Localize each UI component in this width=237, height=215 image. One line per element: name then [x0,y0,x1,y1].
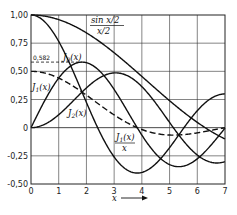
x-tick-label: 4 [139,187,144,196]
x-tick-label: 1 [56,187,61,196]
curve-j2 [31,73,225,163]
label-j0: J0(x) [61,52,82,63]
label-sinc-numerator: sin x/2 [91,15,119,25]
label-j1x-denominator: x [122,143,127,153]
plot-curves [31,15,225,173]
bessel-function-chart: 1,000,750,500,250-0,25-0,50 01234567 0,5… [0,0,237,215]
x-tick-label: 0 [28,187,33,196]
x-tick-label: 7 [222,187,227,196]
label-j1: J1(x) [30,82,51,93]
label-j1-text: J1(x) [30,82,51,93]
y-tick-label: 1,00 [10,11,28,20]
curve-j1x [31,71,225,135]
curve-j0 [31,15,225,173]
label-sinc: sin x/2 x/2 [90,15,124,36]
y-tick-label: 0,50 [10,67,28,76]
x-tick-label: 2 [84,187,89,196]
peak-marker-label: 0,582 [33,54,50,61]
y-tick-label: 0,75 [10,39,28,48]
x-axis-tick-labels: 01234567 [28,187,227,196]
y-tick-label: 0,25 [10,96,28,105]
y-tick-label: 0 [23,124,28,133]
y-axis-tick-labels: 1,000,750,500,250-0,25-0,50 [7,11,28,189]
label-sinc-denominator: x/2 [97,26,110,36]
y-tick-label: -0,25 [7,152,28,161]
label-j0-text: J0(x) [61,52,82,63]
x-axis-arrow-head-icon [142,196,148,201]
label-j1x-numerator: J1(x) [114,132,135,143]
label-j1x: J1(x) x [114,132,135,153]
x-axis-label-text: x [112,193,117,203]
x-tick-label: 6 [195,187,200,196]
label-j2: J2(x) [66,108,87,119]
x-tick-label: 5 [167,187,172,196]
label-j2-text: J2(x) [66,108,87,119]
y-tick-label: -0,50 [7,180,28,189]
grid-lines [31,15,225,184]
